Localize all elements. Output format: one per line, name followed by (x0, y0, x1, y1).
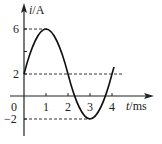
x-tick-3: 3 (87, 100, 93, 114)
y-tick-6: 6 (13, 22, 19, 36)
y-axis-title: i/A (29, 3, 45, 17)
x-axis-unit: /ms (129, 99, 147, 113)
x-axis-title: t/ms (126, 99, 147, 113)
x-tick-2: 2 (65, 100, 71, 114)
x-tick-4: 4 (109, 100, 115, 114)
y-tick-2: 2 (13, 67, 19, 81)
y-axis-unit: /A (32, 3, 44, 17)
y-tick-neg2: −2 (4, 112, 17, 126)
x-tick-1: 1 (43, 100, 49, 114)
sine-current-chart: 0 1 2 3 4 6 2 −2 i/A t/ms (0, 0, 162, 144)
